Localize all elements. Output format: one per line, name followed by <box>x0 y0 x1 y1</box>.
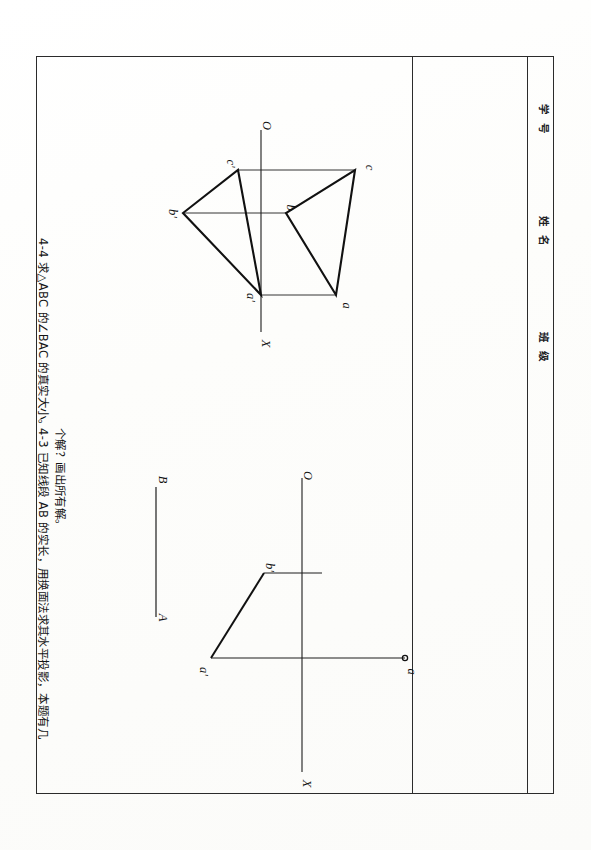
label-4-4-b-prime: b' <box>165 209 180 218</box>
label-4-3-B: B <box>155 476 170 484</box>
title-field-class: 班 级 <box>537 332 552 363</box>
label-4-3-axis-O: O <box>300 471 315 480</box>
label-4-4-b: b <box>283 204 298 210</box>
label-4-3-a-prime: a' <box>196 667 211 676</box>
problem-4-3-statement-line-1: 4-3 已知线段 AB 的实长，用换面法求其水平投影，本题有几 <box>36 428 52 739</box>
problem-4-4-statement: 4-4 求△ABC 的∠BAC 的真实大小。 <box>36 238 52 431</box>
label-4-4-axis-O: O <box>259 121 274 130</box>
title-block-rule <box>527 56 528 794</box>
problem-4-3-statement-line-2: 个解？画出所有解。 <box>53 428 69 531</box>
label-4-3-axis-X: X <box>299 780 314 788</box>
worksheet-page: 班 级 姓 名 学 号 4-4 求△ABC 的∠BAC 的真实大小。 4-3 已… <box>0 0 591 850</box>
title-field-student-name: 姓 名 <box>537 216 552 247</box>
label-4-3-a: a <box>404 668 419 674</box>
label-4-4-c-prime: c' <box>223 159 238 167</box>
label-4-4-axis-X: X <box>258 340 273 348</box>
sheet-border <box>36 56 554 794</box>
title-field-student-number: 学 号 <box>537 104 552 135</box>
label-4-3-A: A <box>155 614 170 622</box>
label-4-4-a: a <box>339 302 354 308</box>
label-4-4-c: c <box>362 165 377 171</box>
label-4-3-b-prime: b' <box>262 563 277 572</box>
panel-divider <box>412 56 413 794</box>
label-4-4-a-prime: a' <box>243 293 258 302</box>
